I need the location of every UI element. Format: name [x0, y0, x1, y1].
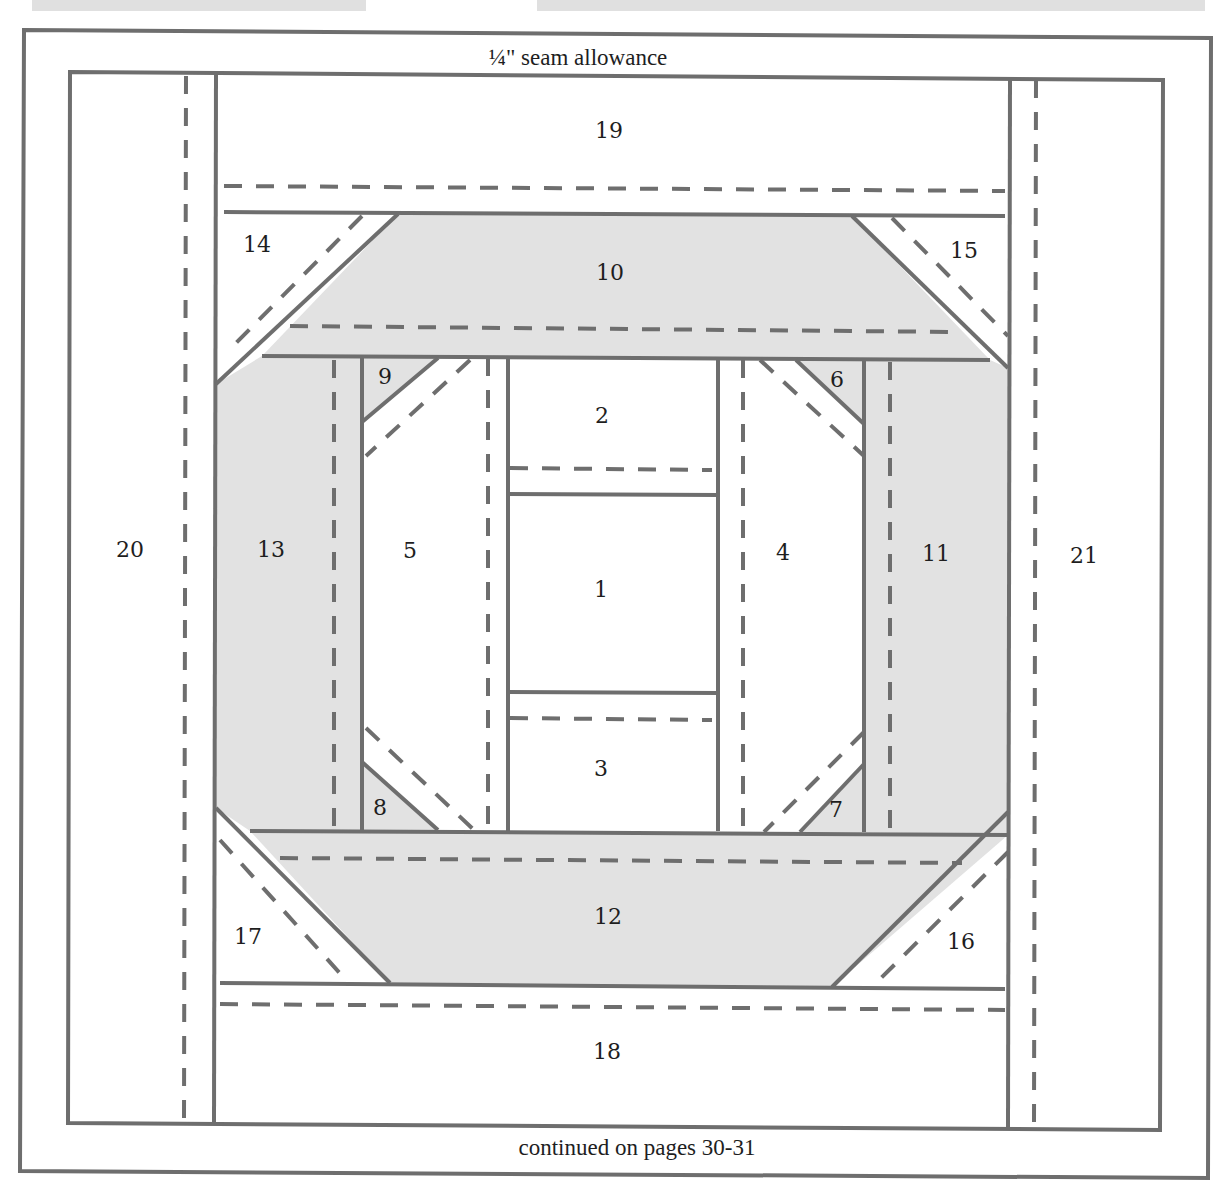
piece-11-shape — [864, 360, 1008, 835]
piece-label-20: 20 — [116, 537, 144, 562]
foundation-piecing-pattern: ¼" seam allowance continued on pages 30-… — [0, 0, 1224, 1184]
piece-label-12: 12 — [594, 904, 622, 929]
continued-label: continued on pages 30-31 — [519, 1135, 756, 1160]
piece-label-4: 4 — [776, 540, 790, 565]
piece-label-2: 2 — [595, 403, 609, 428]
piece-label-8: 8 — [373, 795, 387, 820]
piece-label-14: 14 — [243, 232, 271, 257]
piece-label-5: 5 — [403, 538, 417, 563]
seam-allowance-label: ¼" seam allowance — [489, 45, 668, 70]
piece-label-9: 9 — [378, 364, 392, 389]
piece-label-17: 17 — [234, 924, 262, 949]
piece-label-19: 19 — [595, 118, 623, 143]
piece-label-11: 11 — [922, 541, 950, 566]
piece-label-10: 10 — [596, 260, 624, 285]
piece-label-18: 18 — [593, 1039, 621, 1064]
piece-label-13: 13 — [257, 537, 285, 562]
piece-label-15: 15 — [950, 238, 978, 263]
piece-label-7: 7 — [829, 797, 843, 822]
piece-label-16: 16 — [947, 929, 975, 954]
piece-12-shape — [250, 831, 1008, 987]
piece-label-3: 3 — [594, 756, 608, 781]
piece-10-shape — [262, 214, 990, 360]
piece-label-21: 21 — [1070, 543, 1098, 568]
piece-13-shape — [216, 356, 362, 831]
piece-label-1: 1 — [594, 577, 608, 602]
piece-label-6: 6 — [830, 367, 844, 392]
